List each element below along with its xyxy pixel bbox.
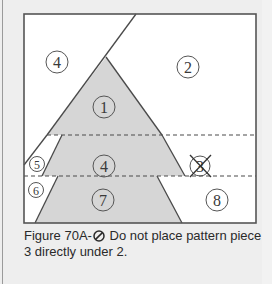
svg-text:1: 1 [100, 99, 108, 116]
svg-text:2: 2 [184, 59, 192, 76]
figure-caption: Figure 70A- Do not place pattern piece 3… [24, 228, 264, 260]
svg-text:8: 8 [213, 192, 221, 209]
svg-text:6: 6 [33, 184, 39, 198]
no-symbol-icon [93, 230, 105, 242]
svg-text:5: 5 [34, 158, 40, 172]
piece-7-shape [35, 176, 182, 223]
piece-4-middle-shape [42, 135, 185, 176]
svg-text:7: 7 [99, 192, 107, 209]
svg-text:4: 4 [53, 54, 61, 71]
svg-text:4: 4 [100, 158, 108, 175]
caption-prefix: Figure 70A- [24, 228, 92, 243]
